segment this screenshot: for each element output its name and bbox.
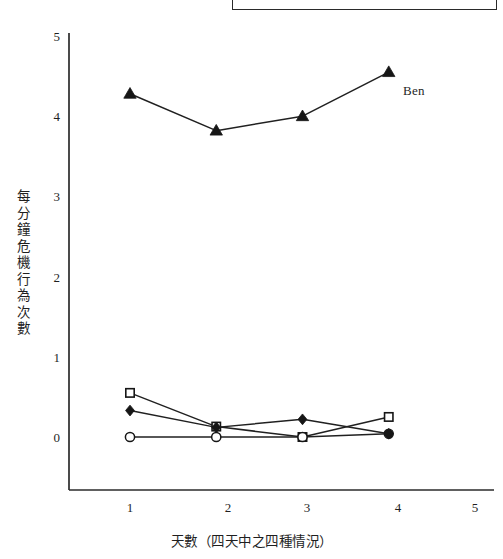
y-axis-title: 每分鐘危機行為次數: [12, 188, 34, 337]
series-label-ben: Ben: [403, 83, 425, 99]
y-tick-0: 0: [38, 431, 60, 444]
y-tick-2: 2: [38, 271, 60, 284]
y-tick-4: 4: [38, 110, 60, 123]
series-Ben: [124, 66, 395, 135]
series-line: [130, 434, 389, 437]
y-tick-5: 5: [38, 30, 60, 43]
series-layer: [124, 66, 395, 442]
series-series-open-square: [126, 389, 393, 442]
series-line: [130, 411, 389, 434]
y-tick-1: 1: [38, 351, 60, 364]
x-tick-1: 1: [119, 501, 141, 514]
x-tick-4: 4: [387, 501, 409, 514]
series-series-filled-diamond: [126, 405, 394, 439]
line-chart-canvas: [0, 0, 503, 559]
series-line: [130, 72, 389, 131]
x-tick-2: 2: [217, 501, 239, 514]
chart-page: 5 4 3 2 1 0 1 2 3 4 5 Ben 每分鐘危機行為次數 天數（四…: [0, 0, 503, 559]
y-tick-3: 3: [38, 190, 60, 203]
x-tick-5: 5: [464, 501, 486, 514]
x-axis-title: 天數（四天中之四種情況）: [0, 530, 503, 550]
series-line: [130, 393, 389, 437]
x-tick-3: 3: [296, 501, 318, 514]
